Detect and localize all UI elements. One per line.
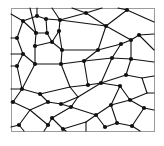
graph-node-dot <box>21 52 25 56</box>
graph-edge <box>101 58 112 83</box>
graph-edge <box>130 100 144 108</box>
graph-node-dot <box>99 81 103 85</box>
graph-node-dot <box>124 73 128 77</box>
graph-node-dot <box>15 36 19 40</box>
graph-edge <box>22 64 35 89</box>
graph-edge <box>139 34 154 35</box>
graph-edge <box>17 21 23 38</box>
graph-node-dot <box>57 29 61 33</box>
graph-node-dot <box>128 98 132 102</box>
graph-node-dot <box>129 38 133 42</box>
graph-edge <box>63 122 86 129</box>
graph-node-dot <box>46 100 50 104</box>
graph-edge <box>84 61 88 85</box>
graph-node-dot <box>34 31 38 35</box>
graph-node-dot <box>109 103 113 107</box>
graph-edge <box>61 61 84 64</box>
graph-node-dot <box>58 18 62 22</box>
graph-node-dot <box>94 113 98 117</box>
graph-edge <box>46 19 60 20</box>
graph-edge <box>22 89 40 94</box>
graph-edge <box>13 89 22 102</box>
graph-node-dot <box>84 11 88 15</box>
graph-node-dot <box>59 62 63 66</box>
graph-node-dot <box>60 48 64 52</box>
graph-node-dot <box>96 48 100 52</box>
graph-node-dot <box>17 123 21 127</box>
graph-edge <box>111 86 120 105</box>
graph-node-dot <box>15 64 19 68</box>
graph-edge <box>17 38 23 54</box>
graph-edge <box>84 58 112 61</box>
graph-node-dot <box>33 44 37 48</box>
graph-node-dot <box>69 105 73 109</box>
graph-edge <box>120 86 130 100</box>
graph-node-dot <box>115 121 119 125</box>
graph-node-dot <box>59 102 63 106</box>
graph-edge <box>111 105 117 123</box>
graph-edge <box>111 100 130 105</box>
graph-edge <box>132 108 144 126</box>
graph-node-dot <box>33 62 37 66</box>
graph-edge <box>126 59 131 75</box>
graph-node-dot <box>61 127 65 131</box>
graph-edge <box>52 118 63 129</box>
graph-node-dot <box>50 40 54 44</box>
graph-edge <box>52 8 60 20</box>
graph-edges <box>11 8 154 131</box>
graph-edge <box>19 110 30 125</box>
graph-node-dot <box>44 17 48 21</box>
graph-node-dot <box>35 14 39 18</box>
graph-edge <box>59 31 62 50</box>
graph-edge <box>30 110 48 125</box>
graph-edge <box>35 42 52 46</box>
planar-graph-diagram <box>0 0 164 146</box>
graph-edge <box>23 16 37 21</box>
graph-edge <box>139 35 154 50</box>
graph-node-dot <box>137 33 141 37</box>
graph-node-dot <box>46 123 50 127</box>
graph-node-dot <box>130 124 134 128</box>
graph-edge <box>61 64 70 87</box>
graph-edge <box>98 26 106 50</box>
graph-edge <box>70 87 78 97</box>
graph-edge <box>142 78 147 93</box>
graph-node-dot <box>45 31 49 35</box>
graph-nodes <box>11 8 146 131</box>
graph-node-dot <box>86 83 90 87</box>
graph-node-dot <box>38 92 42 96</box>
graph-edge <box>17 66 22 89</box>
graph-edge <box>61 50 62 64</box>
graph-node-dot <box>103 125 107 129</box>
graph-edge <box>60 13 86 20</box>
graph-edge <box>46 19 47 33</box>
graph-node-dot <box>119 42 123 46</box>
graph-node-dot <box>20 87 24 91</box>
graph-node-dot <box>104 24 108 28</box>
graph-edge <box>131 59 154 62</box>
graph-edge <box>40 87 70 94</box>
graph-node-dot <box>129 57 133 61</box>
graph-edge <box>127 10 154 22</box>
graph-node-dot <box>118 84 122 88</box>
graph-edge <box>126 75 142 78</box>
graph-edge <box>96 105 111 115</box>
graph-edge <box>13 102 30 110</box>
graph-edge <box>101 75 126 83</box>
graph-node-dot <box>82 59 86 63</box>
graph-edge <box>70 85 88 87</box>
graph-edge <box>30 102 48 110</box>
graph-edge <box>101 83 120 86</box>
graph-node-dot <box>125 8 129 12</box>
graph-node-dot <box>50 116 54 120</box>
graph-edge <box>106 26 131 40</box>
graph-node-dot <box>110 56 114 60</box>
graph-edge <box>117 123 132 126</box>
graph-edge <box>142 76 154 78</box>
graph-node-dot <box>142 106 146 110</box>
graph-edge <box>30 8 36 33</box>
graph-node-dot <box>21 19 25 23</box>
graph-edge <box>130 93 147 100</box>
graph-edge <box>52 107 71 118</box>
graph-edge <box>112 58 131 59</box>
